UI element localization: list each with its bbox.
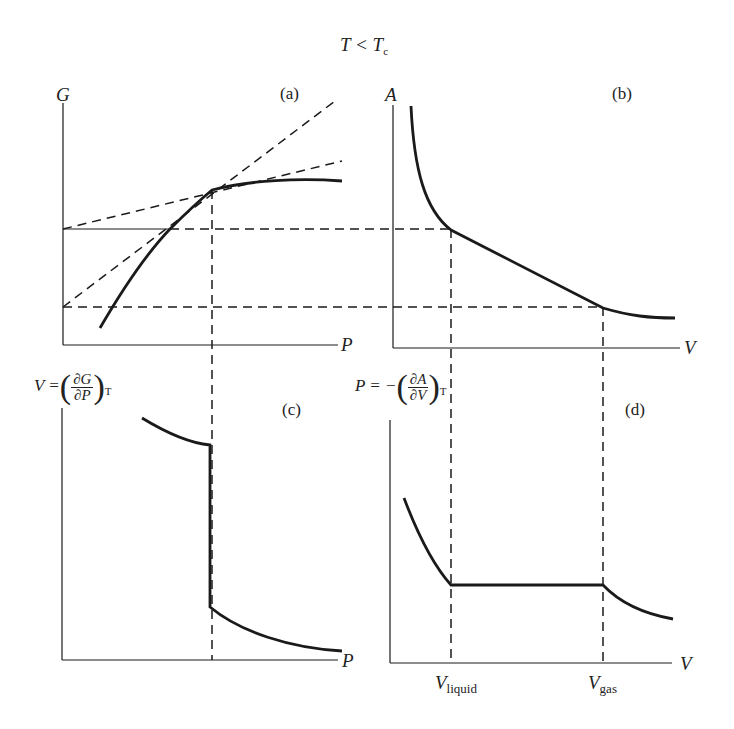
tick-label-v-gas: Vgas xyxy=(588,672,617,697)
panel-d-denominator: ∂V xyxy=(408,388,429,403)
tick-label-v-liquid: Vliquid xyxy=(435,672,477,697)
panel-c-axes xyxy=(62,408,338,660)
panel-c-tag: (c) xyxy=(282,400,301,420)
panel-c-xlabel: P xyxy=(342,650,354,672)
tick-v-liquid-sub: liquid xyxy=(447,681,477,696)
panel-c-numerator: ∂G xyxy=(71,372,93,388)
panel-d-numerator: ∂A xyxy=(408,372,429,388)
panel-c-subscript: T xyxy=(105,385,112,397)
panel-a-tangent-lines xyxy=(63,101,603,660)
panel-d-ylabel: P = −(∂A∂V)T xyxy=(355,368,447,406)
panel-d-subscript: T xyxy=(440,385,447,397)
panel-a-tag: (a) xyxy=(280,84,299,104)
panel-b-xlabel: V xyxy=(684,337,696,359)
panel-a-ylabel: G xyxy=(56,84,70,106)
panel-c-ylabel: V =(∂G∂P)T xyxy=(34,368,111,406)
panel-d-xlabel: V xyxy=(680,653,692,675)
panel-a-xlabel: P xyxy=(341,334,353,356)
panel-b-ylabel: A xyxy=(385,84,397,106)
panel-b-a-curve xyxy=(411,106,675,318)
panel-d-p-curve xyxy=(404,498,673,619)
panel-b-tag: (b) xyxy=(612,84,632,104)
panel-a-axes xyxy=(63,103,338,345)
paren-close: ) xyxy=(428,368,439,405)
panel-d-tag: (d) xyxy=(625,400,645,420)
tick-v-gas-main: V xyxy=(588,672,600,693)
paren-close: ) xyxy=(93,368,104,405)
panel-c-derivative: ∂G∂P xyxy=(71,372,93,403)
figure-title: T < Tc xyxy=(340,34,388,57)
panel-c-ylabel-lhs: V = xyxy=(34,376,60,395)
figure-title-subscript: c xyxy=(383,45,388,57)
thermodynamics-figure xyxy=(0,0,734,729)
panel-a-g-curve xyxy=(100,180,342,328)
paren-open: ( xyxy=(397,368,408,405)
tick-v-liquid-main: V xyxy=(435,672,447,693)
panel-c-v-curve xyxy=(142,418,342,651)
panel-b-dashed-verticals xyxy=(451,229,603,663)
panel-d-derivative: ∂A∂V xyxy=(408,372,429,403)
panel-b-axes xyxy=(393,105,680,348)
panel-d-ylabel-lhs: P = − xyxy=(355,376,397,395)
panel-d-axes xyxy=(390,420,672,663)
paren-open: ( xyxy=(60,368,71,405)
panel-c-denominator: ∂P xyxy=(71,388,93,403)
tick-v-gas-sub: gas xyxy=(600,681,617,696)
figure-title-text: T < T xyxy=(340,34,383,55)
